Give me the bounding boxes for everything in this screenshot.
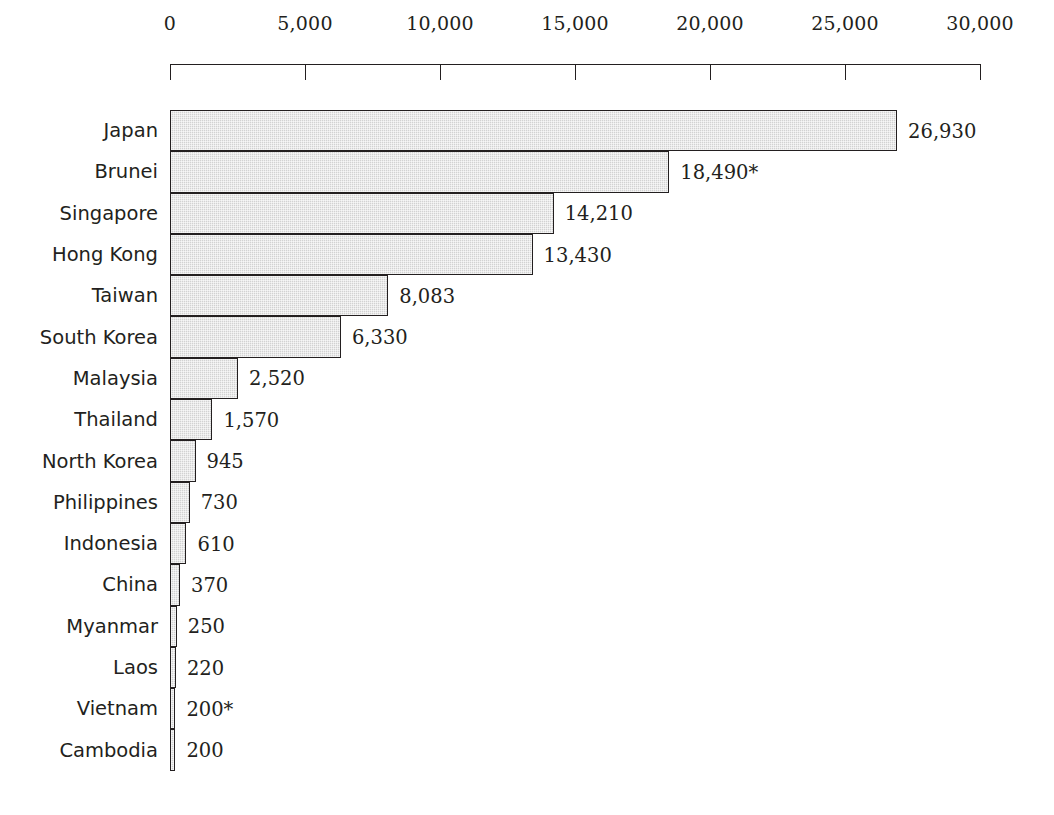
x-axis-tick (440, 64, 441, 80)
category-label-text: Taiwan (92, 284, 158, 307)
bar (170, 523, 186, 564)
chart-row: Thailand1,570 (0, 399, 1054, 440)
plot-area: Japan26,930Brunei18,490*Singapore14,210H… (0, 110, 1054, 772)
category-label: South Korea (0, 316, 158, 357)
bar (170, 151, 669, 192)
category-label: Vietnam (0, 688, 158, 729)
bar-value-label: 8,083 (399, 284, 455, 307)
x-axis-tick (170, 64, 171, 80)
category-label-text: Myanmar (66, 615, 158, 638)
category-label-text: China (102, 573, 158, 596)
category-label: Cambodia (0, 729, 158, 770)
bar (170, 316, 341, 357)
bar (170, 399, 212, 440)
bar-value-label: 26,930 (908, 119, 976, 142)
bar-value-label: 220 (187, 656, 224, 679)
chart-row: China370 (0, 564, 1054, 605)
category-label: Philippines (0, 482, 158, 523)
x-axis-tick (305, 64, 306, 80)
category-label-text: Philippines (53, 491, 158, 514)
bar (170, 358, 238, 399)
category-label-text: North Korea (42, 450, 158, 473)
x-axis-tick-label: 5,000 (277, 12, 332, 34)
x-axis-tick-label: 30,000 (946, 12, 1014, 34)
x-axis-tick-label: 15,000 (541, 12, 609, 34)
chart-row: Hong Kong13,430 (0, 234, 1054, 275)
bar-value-label: 370 (191, 573, 228, 596)
category-label: Thailand (0, 399, 158, 440)
category-label: Malaysia (0, 358, 158, 399)
x-axis-tick (710, 64, 711, 80)
bar-value-label: 1,570 (223, 408, 279, 431)
bar (170, 193, 554, 234)
bar-value-label: 2,520 (249, 367, 305, 390)
x-axis-tick (980, 64, 981, 80)
bar-value-label: 14,210 (565, 202, 633, 225)
category-label: North Korea (0, 440, 158, 481)
category-label: Hong Kong (0, 234, 158, 275)
category-label: Brunei (0, 151, 158, 192)
chart-row: Japan26,930 (0, 110, 1054, 151)
bar (170, 482, 190, 523)
bar-value-label: 200* (186, 697, 233, 720)
chart-row: South Korea6,330 (0, 316, 1054, 357)
x-axis-tick-label: 25,000 (811, 12, 879, 34)
bar (170, 564, 180, 605)
category-label-text: Japan (104, 119, 158, 142)
bar-chart: 05,00010,00015,00020,00025,00030,000 Jap… (0, 0, 1054, 815)
x-axis-tick (575, 64, 576, 80)
bar (170, 688, 175, 729)
chart-row: Myanmar250 (0, 606, 1054, 647)
category-label: Laos (0, 647, 158, 688)
category-label: Taiwan (0, 275, 158, 316)
category-label: Singapore (0, 193, 158, 234)
chart-row: Indonesia610 (0, 523, 1054, 564)
chart-row: Philippines730 (0, 482, 1054, 523)
bar-value-label: 6,330 (352, 326, 408, 349)
category-label: Japan (0, 110, 158, 151)
bar-value-label: 730 (201, 491, 238, 514)
category-label: Myanmar (0, 606, 158, 647)
bar (170, 440, 196, 481)
bar-value-label: 18,490* (680, 160, 758, 183)
bar-value-label: 250 (188, 615, 225, 638)
bar (170, 729, 175, 770)
bar (170, 647, 176, 688)
chart-row: Brunei18,490* (0, 151, 1054, 192)
chart-row: Vietnam200* (0, 688, 1054, 729)
category-label-text: Singapore (60, 202, 158, 225)
chart-row: Singapore14,210 (0, 193, 1054, 234)
chart-row: Taiwan8,083 (0, 275, 1054, 316)
bar (170, 110, 897, 151)
x-axis-tick (845, 64, 846, 80)
category-label: China (0, 564, 158, 605)
chart-row: Malaysia2,520 (0, 358, 1054, 399)
x-axis-tick-label: 10,000 (406, 12, 474, 34)
category-label-text: Cambodia (59, 739, 158, 762)
category-label-text: Vietnam (77, 697, 158, 720)
category-label-text: Laos (113, 656, 158, 679)
category-label: Indonesia (0, 523, 158, 564)
category-label-text: Malaysia (73, 367, 158, 390)
bar (170, 234, 533, 275)
bar-value-label: 945 (207, 450, 244, 473)
x-axis-tick-label: 0 (164, 12, 176, 34)
chart-row: Cambodia200 (0, 729, 1054, 770)
x-axis-tick-label: 20,000 (676, 12, 744, 34)
chart-row: Laos220 (0, 647, 1054, 688)
bar-value-label: 200 (186, 739, 223, 762)
category-label-text: Hong Kong (52, 243, 158, 266)
bar (170, 606, 177, 647)
category-label-text: Indonesia (64, 532, 158, 555)
x-axis: 05,00010,00015,00020,00025,00030,000 (0, 0, 1054, 95)
bar-value-label: 13,430 (544, 243, 612, 266)
bar-value-label: 610 (197, 532, 234, 555)
chart-row: North Korea945 (0, 440, 1054, 481)
category-label-text: Brunei (94, 160, 158, 183)
category-label-text: Thailand (74, 408, 158, 431)
category-label-text: South Korea (40, 326, 158, 349)
bar (170, 275, 388, 316)
